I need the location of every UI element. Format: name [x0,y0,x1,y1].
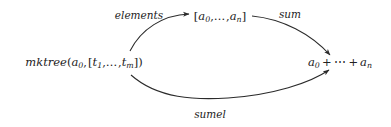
edge-label-sumel: sumel [194,109,226,120]
sum-a-last: a [360,55,367,69]
ellipsis-sum: ⋯ [334,55,347,69]
arg-a: a [71,55,78,69]
edge-label-sum: sum [279,9,301,20]
edge-sum-arrow [252,16,330,55]
ellipsis-list-t: … [106,55,118,69]
plus-sign-2: + [346,55,360,69]
comma-1: , [83,55,87,69]
sum-node: a0+⋯+an [308,57,372,69]
list-a-last: a [230,9,237,23]
mktree-node: mktree(a0, [t1,…,tm]) [25,57,142,69]
list-close-bracket: ] [242,9,247,23]
mktree-function-name: mktree [25,55,67,69]
ellipsis-list-a: … [214,9,226,23]
edge-sumel-arrow [131,70,329,99]
close-paren: ) [138,55,143,69]
list-node: [a0,…,an] [194,11,246,23]
edge-label-elements: elements [115,10,163,21]
plus-sign-1: + [320,55,334,69]
sum-a-first: a [308,55,315,69]
sum-a-last-subscript: n [367,61,372,70]
commutative-diagram: mktree(a0, [t1,…,tm]) [a0,…,an] a0+⋯+an … [0,0,391,127]
